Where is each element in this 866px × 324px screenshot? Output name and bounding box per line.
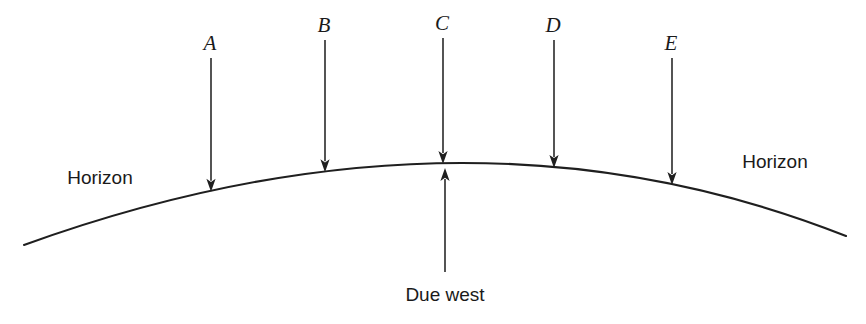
marker-arrow-e: [667, 58, 676, 185]
horizon-label-left: Horizon: [67, 167, 132, 188]
marker-e: E: [664, 31, 678, 185]
due-west-arrow-group: [440, 168, 449, 272]
marker-arrow-c: [438, 38, 447, 164]
marker-label-a: A: [202, 31, 217, 55]
marker-arrow-b: [320, 40, 329, 172]
marker-d: D: [544, 13, 560, 168]
marker-label-b: B: [318, 13, 331, 37]
horizon-label-right: Horizon: [742, 151, 807, 172]
marker-arrow-a: [206, 58, 215, 192]
marker-c: C: [435, 11, 450, 164]
marker-a: A: [202, 31, 217, 192]
marker-arrow-d: [549, 40, 558, 168]
marker-label-d: D: [544, 13, 560, 37]
due-west-label: Due west: [405, 284, 485, 305]
horizon-curve: [24, 163, 846, 245]
marker-b: B: [318, 13, 331, 172]
marker-arrows-group: ABCDE: [202, 11, 678, 192]
marker-label-c: C: [435, 11, 450, 35]
due-west-arrow: [440, 168, 449, 272]
marker-label-e: E: [664, 31, 678, 55]
horizon-diagram: Horizon Horizon ABCDE Due west: [0, 0, 866, 324]
